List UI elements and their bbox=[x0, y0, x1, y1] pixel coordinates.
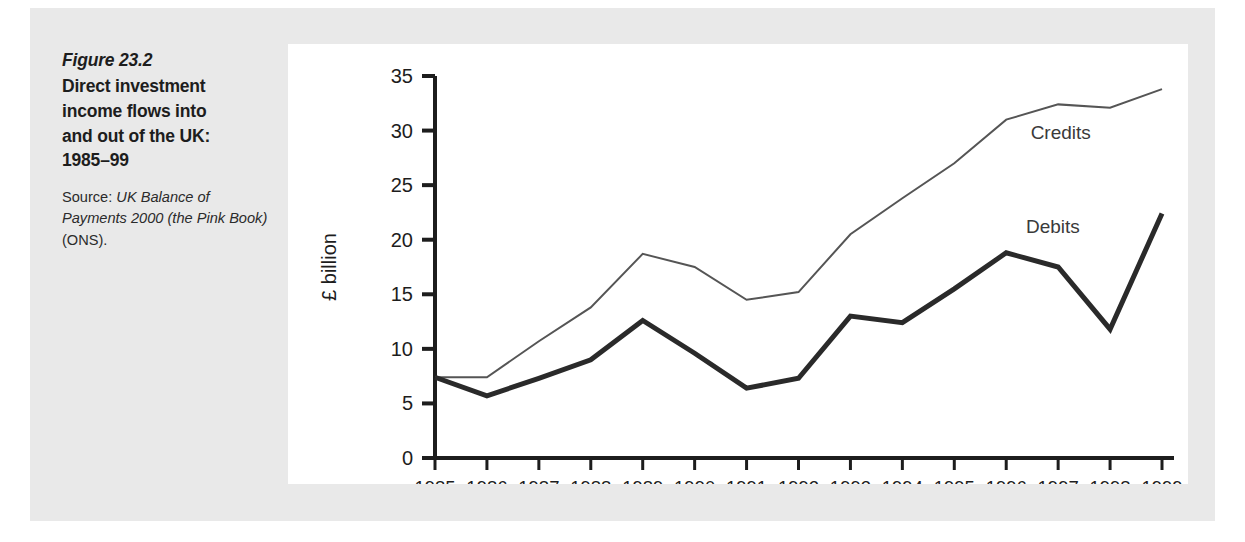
figure-caption-block: Figure 23.2 Direct investment income flo… bbox=[62, 48, 274, 251]
series-annotation-credits: Credits bbox=[1031, 122, 1091, 143]
figure-title-line-1: Direct investment bbox=[62, 74, 274, 99]
y-axis-group: 05101520253035 bbox=[391, 65, 435, 469]
figure-title: Direct investment income flows into and … bbox=[62, 74, 274, 173]
y-tick-label: 15 bbox=[391, 283, 413, 305]
y-tick-label: 35 bbox=[391, 65, 413, 87]
x-axis-group: 1985198619871988198919901991199219931994… bbox=[414, 458, 1182, 484]
series-annotation-debits: Debits bbox=[1026, 216, 1080, 237]
x-tick-label: 1987 bbox=[518, 477, 559, 484]
x-tick-label: 1986 bbox=[466, 477, 507, 484]
x-axis-tick-labels: 1985198619871988198919901991199219931994… bbox=[414, 477, 1182, 484]
x-tick-label: 1985 bbox=[414, 477, 455, 484]
chart-panel: 05101520253035 1985198619871988198919901… bbox=[288, 44, 1188, 484]
x-tick-label: 1988 bbox=[570, 477, 611, 484]
x-tick-label: 1999 bbox=[1141, 477, 1182, 484]
y-tick-label: 10 bbox=[391, 338, 413, 360]
y-tick-label: 0 bbox=[402, 447, 413, 469]
figure-title-line-2: income flows into bbox=[62, 99, 274, 124]
figure-number: Figure 23.2 bbox=[62, 48, 274, 73]
source-title-line-2: Payments 2000 (the bbox=[62, 210, 193, 226]
series-line-debits bbox=[435, 214, 1162, 396]
x-tick-label: 1992 bbox=[778, 477, 819, 484]
x-tick-label: 1998 bbox=[1089, 477, 1130, 484]
y-tick-label: 20 bbox=[391, 229, 413, 251]
figure-title-line-3: and out of the UK: bbox=[62, 124, 274, 149]
x-tick-label: 1995 bbox=[934, 477, 975, 484]
line-chart: 05101520253035 1985198619871988198919901… bbox=[288, 44, 1188, 484]
figure-root: Figure 23.2 Direct investment income flo… bbox=[0, 0, 1245, 542]
series-annotations: CreditsDebits bbox=[1026, 122, 1091, 237]
x-tick-label: 1989 bbox=[622, 477, 663, 484]
figure-title-line-4: 1985–99 bbox=[62, 148, 274, 173]
source-title-line-3: Pink Book) bbox=[197, 210, 268, 226]
y-tick-label: 30 bbox=[391, 120, 413, 142]
y-axis-tick-labels: 05101520253035 bbox=[391, 65, 413, 469]
y-axis-title: £ billion bbox=[318, 233, 340, 301]
x-tick-label: 1990 bbox=[674, 477, 715, 484]
x-tick-label: 1993 bbox=[830, 477, 871, 484]
x-tick-label: 1994 bbox=[882, 477, 923, 484]
source-label: Source: bbox=[62, 189, 116, 205]
x-tick-label: 1991 bbox=[726, 477, 767, 484]
figure-source: Source: UK Balance of Payments 2000 (the… bbox=[62, 187, 274, 250]
y-tick-label: 25 bbox=[391, 174, 413, 196]
y-tick-label: 5 bbox=[402, 392, 413, 414]
source-publisher: (ONS). bbox=[62, 232, 107, 248]
x-tick-label: 1997 bbox=[1038, 477, 1079, 484]
x-tick-label: 1996 bbox=[986, 477, 1027, 484]
source-title-line-1: UK Balance of bbox=[116, 189, 209, 205]
